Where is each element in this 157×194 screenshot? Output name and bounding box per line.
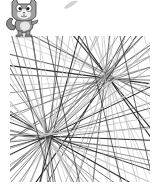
- stage-canvas[interactable]: [0, 0, 157, 194]
- line-art-pattern: [0, 0, 157, 194]
